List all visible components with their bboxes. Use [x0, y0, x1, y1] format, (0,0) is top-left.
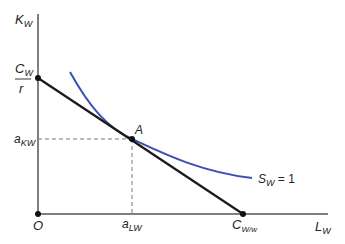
y-intercept-point [35, 75, 41, 81]
akw-label: aKW [14, 132, 37, 148]
origin-point [35, 211, 41, 217]
isoquant-curve [70, 72, 252, 178]
y-intercept-label-num: CW [15, 61, 34, 78]
origin-label: O [33, 218, 43, 233]
x-axis-label: LW [315, 219, 332, 236]
alw-label: aLW [122, 217, 143, 233]
y-axis-label: KW [15, 12, 34, 29]
isocost-line [38, 78, 243, 214]
y-intercept-label-den: r [19, 81, 24, 96]
x-intercept-label: CW/w [232, 217, 258, 234]
isoquant-diagram: KW CW r aKW A O aLW CW/w LW SW = 1 [0, 0, 345, 244]
isoquant-label: SW = 1 [258, 172, 295, 188]
tangency-label-a: A [134, 123, 143, 137]
